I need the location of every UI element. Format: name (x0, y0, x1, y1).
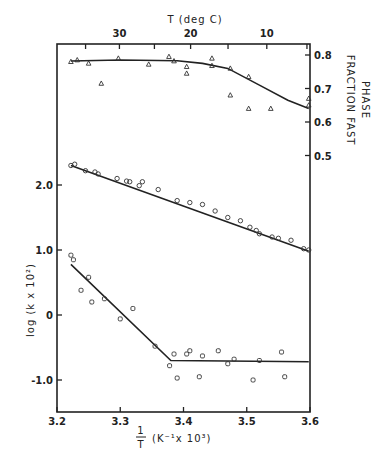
circle-point (137, 183, 141, 187)
fit-line (71, 264, 309, 362)
square-point (71, 258, 75, 262)
triangle-point (246, 74, 251, 78)
x-axis-unit: (K⁻¹x 10³) (152, 433, 211, 444)
plot-data (69, 54, 311, 382)
circle-point (238, 219, 242, 223)
x-tick-label: 3.5 (238, 416, 256, 427)
triangle-point (184, 71, 189, 75)
square-point (131, 307, 135, 311)
square-point (175, 376, 179, 380)
triangle-point (86, 61, 91, 65)
square-point (226, 362, 230, 366)
triangle-point (268, 106, 273, 110)
x-axis-fraction-num: 1 (137, 425, 144, 436)
circle-point (188, 200, 192, 204)
right-tick-label: 0.8 (314, 50, 332, 61)
circle-point (115, 176, 119, 180)
circle-point (140, 180, 144, 184)
left-axis-title: log (k x 10²) (25, 263, 36, 337)
square-point (87, 275, 91, 279)
triangle-point (228, 93, 233, 97)
circle-point (175, 198, 179, 202)
right-tick-label: 0.6 (314, 117, 332, 128)
chart: 3.23.33.43.53.63020102.01.00-1.00.80.70.… (0, 0, 382, 458)
square-point (280, 350, 284, 354)
top-tick-label: 20 (184, 28, 198, 39)
right-tick-label: 0.7 (314, 84, 332, 95)
triangle-point (167, 54, 172, 58)
right-axis-title-2: PHASE (360, 81, 371, 119)
top-axis-title: T (deg C) (166, 14, 222, 25)
square-point (172, 352, 176, 356)
left-tick-label: 1.0 (35, 245, 53, 256)
right-tick-label: 0.5 (314, 151, 332, 162)
right-axis-title-1: FRACTION FAST (345, 55, 356, 146)
square-point (79, 288, 83, 292)
square-point (168, 364, 172, 368)
square-point (188, 349, 192, 353)
circle-point (200, 202, 204, 206)
axis-ticks: 3.23.33.43.53.63020102.01.00-1.00.80.70.… (31, 28, 332, 427)
square-point (197, 375, 201, 379)
left-tick-label: 2.0 (35, 180, 53, 191)
circle-point (248, 225, 252, 229)
top-tick-label: 10 (260, 28, 274, 39)
square-point (118, 317, 122, 321)
triangle-point (69, 59, 74, 63)
left-tick-label: 0 (46, 310, 53, 321)
x-tick-label: 3.2 (48, 416, 66, 427)
square-point (216, 349, 220, 353)
triangle-point (210, 56, 215, 60)
square-point (200, 354, 204, 358)
square-point (69, 253, 73, 257)
circle-point (289, 238, 293, 242)
x-axis-fraction-den: T (136, 439, 144, 450)
circle-point (128, 180, 132, 184)
circle-point (226, 215, 230, 219)
x-tick-label: 3.4 (175, 416, 193, 427)
plot-frame (57, 44, 310, 412)
x-tick-label: 3.6 (301, 416, 319, 427)
triangle-point (99, 81, 104, 85)
square-point (90, 300, 94, 304)
left-tick-label: -1.0 (31, 375, 53, 386)
top-tick-label: 30 (112, 28, 126, 39)
x-tick-label: 3.3 (111, 416, 129, 427)
triangle-point (146, 62, 151, 66)
square-point (283, 375, 287, 379)
circle-point (213, 209, 217, 213)
square-point (251, 378, 255, 382)
triangle-point (184, 64, 189, 68)
circle-point (156, 187, 160, 191)
triangle-point (246, 106, 251, 110)
fit-line (71, 60, 309, 109)
